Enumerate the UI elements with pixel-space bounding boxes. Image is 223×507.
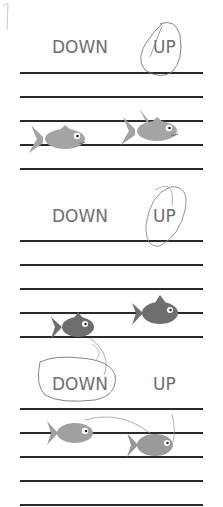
staff-line — [20, 408, 203, 410]
fish-icon — [132, 295, 178, 325]
staff-line — [20, 264, 203, 266]
staff-line — [20, 144, 203, 146]
staff-line — [20, 168, 203, 170]
label-up-3[interactable]: UP — [153, 376, 176, 393]
staff-line — [20, 480, 203, 482]
label-up-2[interactable]: UP — [153, 208, 176, 225]
staff-line — [20, 288, 203, 290]
fish-icon — [127, 433, 173, 457]
staff-line — [20, 240, 203, 242]
staff-line — [20, 336, 203, 338]
staff-line — [20, 96, 203, 98]
staff-line — [20, 504, 203, 506]
fish-icon — [121, 109, 178, 145]
label-up-1[interactable]: UP — [153, 39, 176, 56]
staff-line — [20, 456, 203, 458]
staff-line — [20, 432, 203, 434]
label-down-2[interactable]: DOWN — [52, 208, 108, 225]
worksheet: DOWN UP DOWN UP DOWN UP — [0, 0, 223, 507]
fish-icon — [29, 125, 85, 153]
drawings-overlay — [0, 0, 223, 507]
staff-line — [20, 312, 203, 314]
staff-line — [20, 72, 203, 74]
staff-line — [20, 120, 203, 122]
label-down-1[interactable]: DOWN — [52, 39, 108, 56]
fish-icon — [51, 312, 94, 339]
label-down-3[interactable]: DOWN — [52, 376, 108, 393]
corner-mark-icon — [3, 4, 8, 30]
